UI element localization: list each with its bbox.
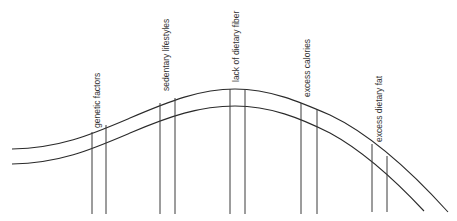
factor-lines-genetic <box>92 125 106 214</box>
factor-lines-fat <box>372 144 387 212</box>
label-sedentary-lifestyles: sedentary lifestyles <box>161 19 171 91</box>
factor-lines-calories <box>301 103 317 214</box>
label-excess-dietary-fat: excess dietary fat <box>374 75 384 142</box>
factor-lines-sedentary <box>160 98 175 214</box>
label-genetic-factors: genetic factors <box>92 73 102 128</box>
label-excess-calories: excess calories <box>302 39 312 97</box>
factor-lines-fiber <box>230 89 245 214</box>
lower-curve <box>12 106 424 211</box>
label-lack-of-dietary-fiber: lack of dietary fiber <box>231 10 241 82</box>
risk-factors-diagram: genetic factors sedentary lifestyles lac… <box>0 0 457 221</box>
